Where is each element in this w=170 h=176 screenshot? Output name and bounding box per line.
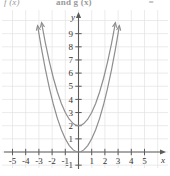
x-tick-label: -5 [9,156,17,166]
y-tick-label: 7 [69,55,74,65]
y-tick-label: -1 [66,160,74,170]
header-fragment-middle: and g (x) [56,0,92,7]
y-tick-label: 3 [69,108,74,118]
y-tick-label: 4 [69,95,74,105]
x-axis-arrow [160,149,166,154]
y-tick-label: 1 [69,134,74,144]
x-tick-label: 4 [129,156,134,166]
grid-lines [0,10,168,168]
axes [4,12,166,169]
x-tick-label: 2 [103,156,108,166]
x-tick-label: 5 [142,156,147,166]
y-axis-arrow [76,12,81,18]
y-tick-label: 6 [69,68,74,78]
y-tick-label: 5 [69,81,74,91]
y-tick-label: 2 [69,121,74,131]
plot-area: -5-4-3-2-112345987654321-1 y x [0,8,170,176]
y-tick-label: 8 [69,42,74,52]
x-tick-label: -4 [22,156,30,166]
y-axis-label: y [70,12,75,22]
x-tick-label: -3 [35,156,43,166]
x-tick-label: 3 [116,156,121,166]
header-fragment-right: = [148,0,154,7]
x-tick-label: -2 [48,156,56,166]
header-fragment-left: f (x) [4,0,20,7]
x-axis-label: x [160,155,165,165]
coordinate-plane-svg: -5-4-3-2-112345987654321-1 y x [0,8,170,176]
y-tick-label: 9 [69,29,74,39]
x-tick-label: 1 [89,156,94,166]
graph-figure: f (x) and g (x) = -5-4-3-2-1123459876543… [0,0,170,176]
